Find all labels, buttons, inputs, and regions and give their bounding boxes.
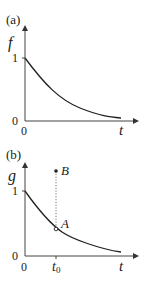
point-b-label: B — [61, 163, 69, 178]
y-tick-0: 0 — [12, 249, 18, 263]
point-a-label: A — [60, 216, 69, 231]
y-axis-label: g — [8, 167, 16, 185]
panel-a-label: (a) — [6, 12, 20, 27]
point-a — [54, 227, 58, 231]
x-tick-0: 0 — [21, 124, 27, 138]
panel-a: (a) f 1 0 0 t — [6, 12, 136, 138]
y-axis-label: f — [8, 34, 15, 52]
x-tick-0: 0 — [21, 260, 27, 274]
point-b — [54, 169, 58, 173]
x-axis-label: t — [119, 122, 124, 138]
x-axis-label: t — [119, 258, 124, 274]
y-tick-0: 0 — [12, 114, 18, 128]
x-tick-t0: t0 — [52, 259, 61, 275]
panel-b-label: (b) — [6, 147, 21, 162]
decay-curve — [25, 191, 121, 252]
panel-b: (b) g 1 0 0 t0 t B A — [6, 147, 136, 275]
y-tick-1: 1 — [12, 51, 18, 65]
y-tick-1: 1 — [12, 184, 18, 198]
figure: (a) f 1 0 0 t (b) g 1 0 0 t0 t B A — [0, 0, 149, 282]
decay-curve — [25, 58, 121, 118]
